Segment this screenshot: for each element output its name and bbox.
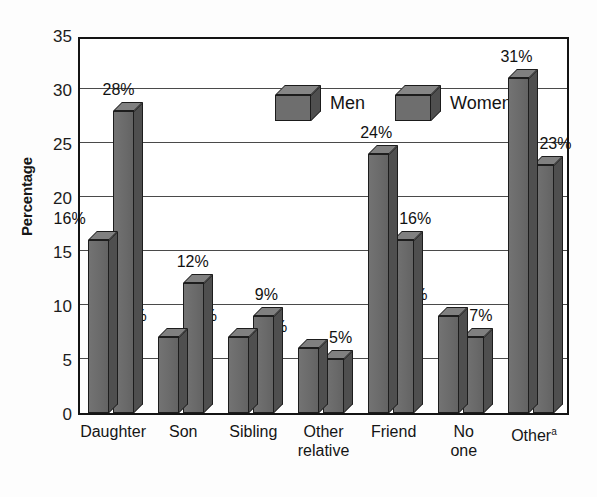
y-tick-label: 5 [42, 352, 72, 369]
legend: MenWomen [275, 81, 512, 125]
bar [438, 316, 459, 413]
bar-side-face [179, 328, 188, 413]
data-label: 16% [399, 211, 431, 227]
bar [158, 337, 179, 413]
data-label: 7% [469, 308, 492, 324]
cube-3d-icon [395, 85, 441, 121]
y-tick-label: 35 [42, 28, 72, 45]
bar-side-face [389, 145, 398, 413]
cube-front-face [395, 95, 431, 121]
bar-side-face [554, 156, 563, 413]
y-tick-label: 30 [42, 82, 72, 99]
bar-front-face [228, 337, 249, 413]
gridline [80, 304, 567, 305]
bar-side-face [274, 307, 283, 413]
bar-front-face [88, 240, 109, 413]
bar-front-face [368, 154, 389, 413]
bar-front-face [508, 78, 529, 413]
plot-area: 16%28%7%12%7%9%6%5%24%16%9%7%31%23% MenW… [78, 37, 569, 415]
x-tick-label-line2: relative [269, 441, 379, 460]
legend-entry-women: Women [395, 85, 512, 121]
x-tick-label-line1: No [454, 423, 474, 440]
bar [88, 240, 109, 413]
data-label: 5% [329, 330, 352, 346]
legend-entry-men: Men [275, 85, 365, 121]
gridline [80, 142, 567, 143]
y-tick-label: 25 [42, 136, 72, 153]
legend-label: Women [450, 93, 512, 114]
bar-side-face [319, 339, 328, 413]
bar [228, 337, 249, 413]
bar [298, 348, 319, 413]
chart-figure: Percentage 35302520151050 16%28%7%12%7%9… [0, 0, 597, 497]
bar-side-face [459, 307, 468, 413]
bar-side-face [414, 231, 423, 413]
y-tick-label: 0 [42, 406, 72, 423]
x-tick-label: Othera [479, 422, 589, 445]
footnote-marker: a [551, 426, 557, 437]
data-label: 9% [255, 287, 278, 303]
data-label: 31% [500, 49, 532, 65]
data-label: 23% [539, 136, 571, 152]
data-label: 12% [177, 254, 209, 270]
gridline [80, 250, 567, 251]
y-axis-title: Percentage [18, 127, 35, 267]
bar-side-face [484, 328, 493, 413]
y-tick-label: 15 [42, 244, 72, 261]
x-tick-label-line1: Other [303, 423, 343, 440]
data-label: 16% [54, 211, 86, 227]
bar-side-face [344, 350, 353, 413]
bar-side-face [134, 102, 143, 413]
x-tick-label-line1: Othera [511, 427, 557, 444]
gridline [80, 196, 567, 197]
x-tick-label-line1: Son [169, 423, 197, 440]
y-tick-label: 10 [42, 298, 72, 315]
cube-3d-icon [275, 85, 321, 121]
bar-front-face [298, 348, 319, 413]
bar [368, 154, 389, 413]
bar-side-face [204, 274, 213, 413]
bar-front-face [158, 337, 179, 413]
bar-front-face [438, 316, 459, 413]
legend-label: Men [330, 93, 365, 114]
cube-front-face [275, 95, 311, 121]
y-tick-label: 20 [42, 190, 72, 207]
bar-side-face [529, 69, 538, 413]
data-label: 28% [103, 82, 135, 98]
data-label: 24% [360, 125, 392, 141]
bar [508, 78, 529, 413]
bar-side-face [249, 328, 258, 413]
bar-side-face [109, 231, 118, 413]
